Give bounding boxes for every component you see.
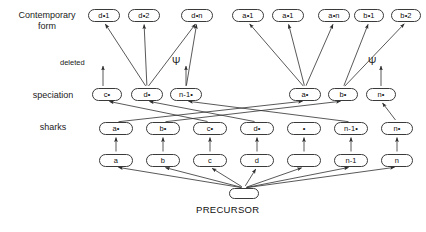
node-label: a•1 bbox=[282, 12, 293, 20]
node-label: n• bbox=[394, 125, 401, 133]
node-b1[interactable]: b•1 bbox=[354, 9, 384, 22]
node-label: a•n bbox=[328, 12, 339, 20]
node-label: a• bbox=[302, 91, 309, 99]
edge-nsh-nstar bbox=[383, 103, 396, 120]
row-label-speciation: speciation bbox=[22, 90, 84, 101]
edge-dstar-d1 bbox=[105, 24, 145, 86]
node-label: c• bbox=[207, 125, 214, 133]
node-an[interactable]: a•n bbox=[318, 9, 350, 22]
edge-astar-a1 bbox=[250, 24, 304, 86]
row-label-sharks: sharks bbox=[30, 122, 76, 133]
node-nsh[interactable]: n• bbox=[381, 122, 413, 135]
node-label: b•1 bbox=[363, 12, 374, 20]
node-d[interactable]: d bbox=[240, 154, 274, 167]
psi-left: Ψ bbox=[172, 57, 180, 67]
node-csh[interactable]: c• bbox=[193, 122, 227, 135]
precursor-caption: PRECURSOR bbox=[196, 204, 259, 215]
node-label: a• bbox=[113, 125, 120, 133]
edge-layer bbox=[0, 0, 426, 232]
node-cs[interactable]: c• bbox=[92, 88, 122, 101]
deleted-label: deleted bbox=[60, 58, 85, 67]
node-b[interactable]: b bbox=[146, 154, 180, 167]
node-a[interactable]: a bbox=[99, 154, 133, 167]
node-label: d•n bbox=[191, 12, 202, 20]
edge-bstar-b2 bbox=[345, 24, 405, 86]
node-a1b[interactable]: a•1 bbox=[272, 9, 304, 22]
node-label: n-1• bbox=[344, 125, 358, 133]
node-label: b• bbox=[160, 125, 167, 133]
edge-csh-cstar bbox=[109, 101, 207, 121]
node-label: d bbox=[255, 157, 259, 165]
edge-precursor-d bbox=[245, 169, 255, 186]
node-precursor[interactable] bbox=[229, 188, 259, 199]
node-c[interactable]: c bbox=[193, 154, 227, 167]
node-esh[interactable]: • bbox=[287, 122, 321, 135]
node-n1s[interactable]: n-1• bbox=[170, 88, 202, 101]
node-n[interactable]: n bbox=[381, 154, 413, 167]
node-n1sh[interactable]: n-1• bbox=[334, 122, 368, 135]
node-label: a•1 bbox=[242, 12, 253, 20]
node-label: c• bbox=[104, 91, 111, 99]
edge-astar-a1b bbox=[289, 24, 305, 85]
node-label: a bbox=[114, 157, 118, 165]
edge-dstar-d2 bbox=[144, 24, 147, 85]
node-ns[interactable]: n• bbox=[366, 88, 396, 101]
edge-bstar-b1 bbox=[344, 24, 368, 85]
edge-precursor-n1 bbox=[246, 167, 348, 187]
node-d1[interactable]: d•1 bbox=[88, 9, 120, 22]
node-label: n-1• bbox=[179, 91, 193, 99]
node-b2[interactable]: b•2 bbox=[391, 9, 421, 22]
node-label: b bbox=[161, 157, 165, 165]
node-label: n• bbox=[378, 91, 385, 99]
node-label: • bbox=[303, 125, 306, 133]
edge-dstar-dn bbox=[149, 24, 196, 86]
node-a1[interactable]: a•1 bbox=[232, 9, 264, 22]
node-label: c bbox=[208, 157, 212, 165]
node-label: n bbox=[395, 157, 399, 165]
node-ash[interactable]: a• bbox=[99, 122, 133, 135]
node-label: n-1 bbox=[345, 157, 356, 165]
node-dsh[interactable]: d• bbox=[240, 122, 274, 135]
edge-precursor-a bbox=[118, 167, 241, 187]
node-bs[interactable]: b• bbox=[328, 88, 358, 101]
node-label: d• bbox=[254, 125, 261, 133]
diagram-canvas: d•1d•2d•na•1a•1a•nb•1b•2c•d•n-1•a•b•n•a•… bbox=[0, 0, 426, 232]
node-d2[interactable]: d•2 bbox=[128, 9, 160, 22]
node-dn[interactable]: d•n bbox=[181, 9, 213, 22]
node-e[interactable] bbox=[287, 154, 321, 167]
edge-dsh-dstar bbox=[149, 101, 254, 121]
node-as[interactable]: a• bbox=[289, 88, 321, 101]
node-label: b•2 bbox=[400, 12, 411, 20]
edge-precursor-n bbox=[246, 167, 394, 187]
edge-precursor-b bbox=[165, 168, 241, 188]
node-n1[interactable]: n-1 bbox=[334, 154, 368, 167]
node-ds[interactable]: d• bbox=[131, 88, 163, 101]
node-bsh[interactable]: b• bbox=[146, 122, 180, 135]
edge-astar-an bbox=[306, 24, 333, 85]
node-label: d• bbox=[144, 91, 151, 99]
node-label: d•2 bbox=[138, 12, 149, 20]
node-label: d•1 bbox=[98, 12, 109, 20]
psi-right: Ψ bbox=[368, 57, 376, 67]
node-label: b• bbox=[340, 91, 347, 99]
row-label-contemporary-form: Contemporary form bbox=[8, 10, 86, 32]
